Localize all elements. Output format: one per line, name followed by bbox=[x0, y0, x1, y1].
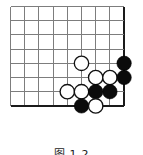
white-stone-c5-r6[interactable] bbox=[74, 85, 88, 99]
go-board-canvas[interactable] bbox=[0, 0, 143, 133]
white-stone-c6-r7[interactable] bbox=[89, 99, 103, 113]
white-stone-c6-r5[interactable] bbox=[89, 70, 103, 84]
white-stone-c4-r6[interactable] bbox=[60, 85, 74, 99]
go-figure: 图 1-2 bbox=[0, 0, 143, 155]
black-stone-c8-r5[interactable] bbox=[117, 70, 131, 84]
figure-caption: 图 1-2 bbox=[0, 133, 143, 155]
go-board[interactable] bbox=[0, 0, 143, 133]
black-stone-c6-r6[interactable] bbox=[89, 85, 103, 99]
black-stone-c5-r7[interactable] bbox=[74, 99, 88, 113]
white-stone-c5-r4[interactable] bbox=[74, 56, 88, 70]
white-stone-c7-r5[interactable] bbox=[103, 70, 117, 84]
black-stone-c8-r4[interactable] bbox=[117, 56, 131, 70]
black-stone-c7-r6[interactable] bbox=[103, 85, 117, 99]
figure-caption-text: 图 1-2 bbox=[54, 149, 89, 155]
